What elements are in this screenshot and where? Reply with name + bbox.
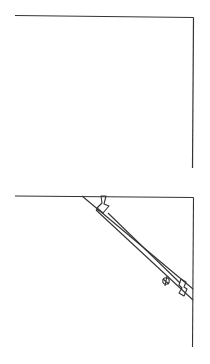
brace-bar-inner-line [108, 213, 180, 283]
brace-bar-lower-edge [96, 210, 193, 300]
right-wall-line [193, 198, 194, 348]
figure-corner-with-brace [15, 196, 194, 347]
figure-corner-empty [15, 16, 194, 169]
top-wall-line [15, 16, 194, 18]
diagram-canvas [0, 0, 210, 364]
right-wall-line [193, 18, 194, 169]
